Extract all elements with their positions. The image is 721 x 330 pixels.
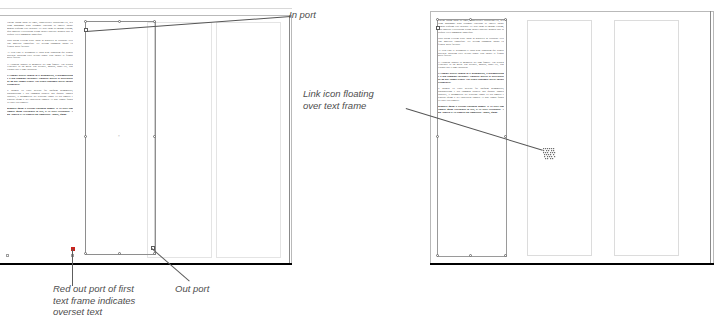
right-page-shadow — [430, 263, 714, 265]
right-page-spine — [710, 11, 711, 263]
left-page-shadow — [0, 263, 292, 265]
right-column-guide-3 — [614, 20, 679, 256]
figure-canvas: Lorem ipsum dolor sit amet, consectetuer… — [0, 0, 721, 330]
body-paragraph: Regulari quam li existent Europan lingue… — [7, 108, 73, 117]
right-frame-handle-top-right[interactable] — [504, 18, 507, 21]
body-paragraph: Lorem ipsum dolor sit amet, consectetuer… — [7, 22, 73, 37]
body-paragraph: At vero eros et accumsan et iusto odio d… — [7, 52, 73, 61]
leader-line-red-out-port — [72, 249, 73, 286]
right-frame-handle-middle-left[interactable] — [436, 135, 439, 138]
frame-handle-middle-left[interactable] — [84, 135, 87, 138]
body-paragraph: Li lingues differe solmen in li grammati… — [7, 75, 73, 87]
frame-handle-middle-right[interactable] — [153, 135, 156, 138]
callout-out-port: Out port — [175, 283, 209, 295]
left-page-spine — [289, 15, 290, 263]
body-paragraph: Li Europan lingues es membres del sam fa… — [7, 64, 73, 73]
left-column-guide-3 — [216, 22, 281, 258]
left-text-column[interactable]: Lorem ipsum dolor sit amet, consectetuer… — [7, 22, 73, 256]
frame-handle-bottom-center[interactable] — [118, 252, 121, 255]
frame-handle-top-center[interactable] — [118, 20, 121, 23]
callout-in-port: In port — [289, 9, 316, 21]
frame-center-point: × — [118, 135, 121, 138]
frame-handle-top-right[interactable] — [153, 20, 156, 23]
frame-handle-bottom-left[interactable] — [84, 252, 87, 255]
link-cursor-icon[interactable] — [542, 147, 558, 163]
first-column-handle-bottom-left[interactable] — [6, 254, 9, 257]
callout-red-out-port: Red out port of first text frame indicat… — [53, 283, 135, 318]
frame-handle-top-left[interactable] — [84, 20, 87, 23]
left-column-guide-2 — [147, 22, 212, 258]
right-column-guide-2 — [527, 20, 592, 256]
right-selected-text-frame[interactable] — [437, 19, 507, 257]
right-frame-handle-bottom-center[interactable] — [469, 254, 472, 257]
body-paragraph: Duis autem veleum iriure dolor in hendre… — [7, 40, 73, 49]
right-frame-handle-top-center[interactable] — [469, 18, 472, 21]
right-frame-handle-bottom-right[interactable] — [504, 254, 507, 257]
left-page-top-edge — [0, 8, 292, 9]
right-frame-handle-top-left[interactable] — [436, 18, 439, 21]
left-selected-text-frame[interactable] — [85, 21, 156, 255]
right-in-port-icon[interactable] — [436, 26, 440, 30]
right-frame-handle-bottom-left[interactable] — [436, 254, 439, 257]
body-paragraph: It solmen va esser necessi far uniform g… — [7, 90, 73, 105]
callout-link-icon: Link icon floating over text frame — [303, 88, 374, 111]
